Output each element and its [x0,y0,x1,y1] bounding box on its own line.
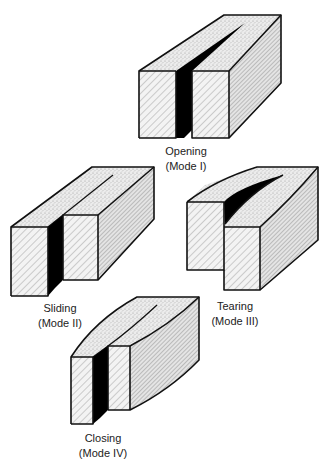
mode-name: Opening [141,144,231,159]
front-face-left [187,202,224,270]
label-opening: Opening (Mode I) [141,144,231,174]
mode-number: (Mode IV) [58,446,148,461]
front-face-right [108,346,130,410]
front-face-left [71,357,93,424]
crack-front [176,71,192,138]
crack-front [93,346,108,424]
front-face-right [224,227,260,290]
mode-name: Tearing [190,299,280,314]
crack-front [48,215,63,296]
front-face-right [192,71,229,138]
fracture-modes-diagram [0,0,332,466]
block-opening [139,15,281,138]
label-sliding: Sliding (Mode II) [15,301,105,331]
mode-number: (Mode I) [141,159,231,174]
front-face-left [11,227,48,296]
label-tearing: Tearing (Mode III) [190,299,280,329]
mode-name: Closing [58,431,148,446]
block-tearing [187,167,318,290]
label-closing: Closing (Mode IV) [58,431,148,461]
front-face-right [63,215,98,280]
mode-number: (Mode II) [15,316,105,331]
front-face-left [139,71,176,138]
mode-number: (Mode III) [190,314,280,329]
mode-name: Sliding [15,301,105,316]
block-sliding [11,167,154,296]
